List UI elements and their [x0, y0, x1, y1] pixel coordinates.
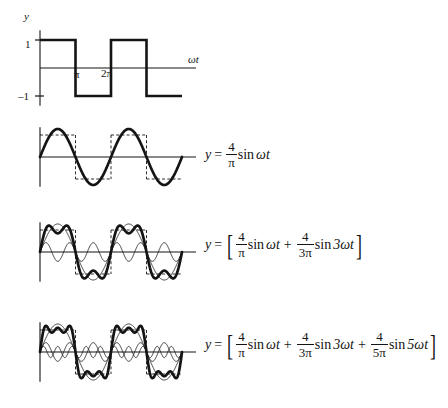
equation-lhs: y [205, 147, 211, 163]
fraction-4-over-pi: 4 π [226, 140, 237, 169]
sin-function-name: sin [389, 337, 405, 353]
first-harmonic-plot [0, 112, 200, 200]
sin-function-name: sin [248, 337, 264, 353]
sin-argument: ωt [256, 147, 270, 163]
sin-function-name: sin [315, 237, 331, 253]
equation-equals: = [214, 147, 222, 163]
panel-first-third-fifth-harmonic [0, 292, 200, 402]
left-bracket: [ [227, 332, 233, 358]
fraction-4-over-3pi: 4 3π [297, 330, 314, 359]
y-tick-label-negative-one: –1 [18, 90, 29, 102]
fraction-numerator: 4 [300, 330, 311, 343]
fraction-denominator: π [236, 246, 247, 259]
sin-argument: 3ωt [333, 237, 354, 253]
panel-square-wave: y ωt 1 –1 π 2π [0, 0, 230, 115]
sin-function-name: sin [315, 337, 331, 353]
equation-lhs: y [205, 337, 211, 353]
panel-first-third-harmonic [0, 200, 200, 295]
x-tick-label-pi: π [74, 68, 80, 80]
first-third-fifth-harmonic-plot [0, 292, 200, 402]
panel-first-harmonic [0, 112, 200, 200]
sin-argument: 3ωt [333, 337, 354, 353]
sin-function-name: sin [248, 237, 264, 253]
plus-operator: + [358, 337, 366, 353]
fourier-square-wave-figure: y ωt 1 –1 π 2π y = 4 π sin ωt y = [ 4 π … [0, 0, 448, 408]
equation-equals: = [214, 237, 222, 253]
sin-argument: ωt [266, 337, 280, 353]
fraction-denominator: 3π [297, 246, 314, 259]
sin-argument: 5ωt [407, 337, 428, 353]
fraction-4-over-pi: 4 π [236, 330, 247, 359]
sin-function-name: sin [238, 147, 254, 163]
y-axis-label: y [24, 10, 29, 22]
fraction-numerator: 4 [374, 330, 385, 343]
fraction-denominator: π [226, 156, 237, 169]
sin-argument: ωt [266, 237, 280, 253]
fraction-4-over-pi: 4 π [236, 230, 247, 259]
fraction-numerator: 4 [226, 140, 237, 153]
fraction-4-over-3pi: 4 3π [297, 230, 314, 259]
plus-operator: + [284, 237, 292, 253]
fraction-numerator: 4 [300, 230, 311, 243]
x-axis-label: ωt [188, 53, 199, 65]
equation-first-third-harmonic: y = [ 4 π sin ωt + 4 3π sin 3ωt ] [205, 230, 364, 259]
plus-operator: + [284, 337, 292, 353]
equation-first-third-fifth-harmonic: y = [ 4 π sin ωt + 4 3π sin 3ωt + 4 5π s… [205, 330, 438, 359]
right-bracket: ] [356, 232, 362, 258]
equation-equals: = [214, 337, 222, 353]
fraction-numerator: 4 [236, 230, 247, 243]
equation-first-harmonic: y = 4 π sin ωt [205, 140, 270, 169]
equation-lhs: y [205, 237, 211, 253]
fraction-denominator: 3π [297, 346, 314, 359]
y-tick-label-positive-one: 1 [25, 38, 31, 50]
left-bracket: [ [227, 232, 233, 258]
fraction-denominator: π [236, 346, 247, 359]
fraction-denominator: 5π [371, 346, 388, 359]
x-tick-label-2pi: 2π [101, 67, 112, 79]
first-third-harmonic-plot [0, 200, 200, 295]
fraction-numerator: 4 [236, 330, 247, 343]
right-bracket: ] [430, 332, 436, 358]
fraction-4-over-5pi: 4 5π [371, 330, 388, 359]
